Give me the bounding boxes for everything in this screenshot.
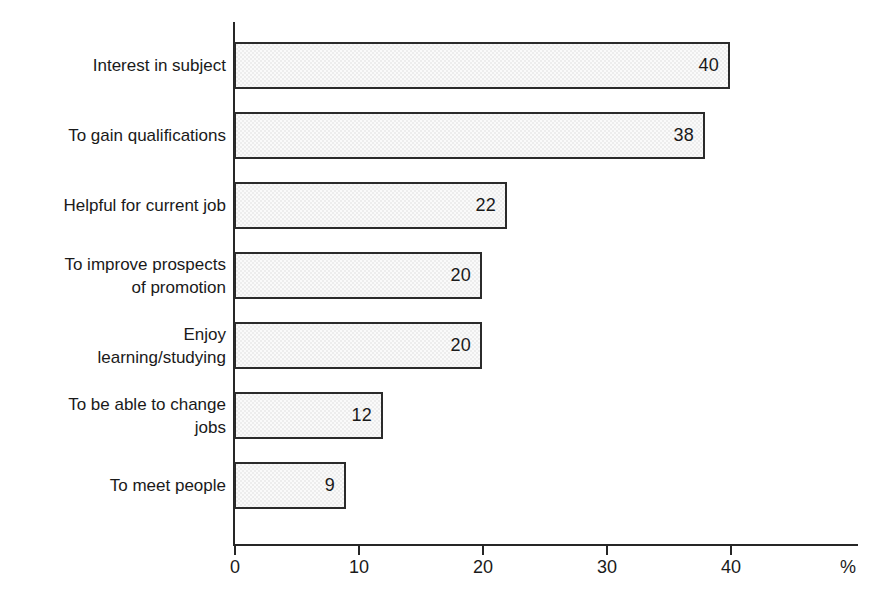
- plot-area: Interest in subject40To gain qualificati…: [0, 0, 883, 614]
- x-axis-unit-label: %: [840, 557, 856, 578]
- bar-chart: Interest in subject40To gain qualificati…: [0, 0, 883, 614]
- bar-value-label: 22: [476, 195, 505, 216]
- bar-value-label: 38: [674, 125, 703, 146]
- x-axis-line: [233, 544, 858, 546]
- x-axis-tick: [606, 546, 608, 555]
- bar: 20: [234, 252, 482, 299]
- bar: 20: [234, 322, 482, 369]
- bar-value-label: 9: [325, 475, 344, 496]
- bar-row: Helpful for current job22: [0, 182, 883, 229]
- bar: 9: [234, 462, 346, 509]
- bar-value-label: 40: [699, 55, 728, 76]
- bar-row: To be able to change jobs12: [0, 392, 883, 439]
- category-label: To be able to change jobs: [0, 393, 226, 439]
- x-axis-tick: [234, 546, 236, 555]
- bar-row: To gain qualifications38: [0, 112, 883, 159]
- category-label: To improve prospects of promotion: [0, 253, 226, 299]
- x-axis-tick-label: 40: [701, 557, 761, 578]
- bar-value-label: 12: [352, 405, 381, 426]
- bar-row: To meet people9: [0, 462, 883, 509]
- x-axis-tick-label: 20: [453, 557, 513, 578]
- x-axis-tick-label: 0: [205, 557, 265, 578]
- bar-row: To improve prospects of promotion20: [0, 252, 883, 299]
- bar-row: Interest in subject40: [0, 42, 883, 89]
- bar: 40: [234, 42, 730, 89]
- x-axis-tick-label: 10: [329, 557, 389, 578]
- bar-value-label: 20: [451, 335, 480, 356]
- x-axis-tick-label: 30: [577, 557, 637, 578]
- bar-value-label: 20: [451, 265, 480, 286]
- x-axis-tick: [482, 546, 484, 555]
- x-axis-tick: [730, 546, 732, 555]
- bar: 38: [234, 112, 705, 159]
- bar: 12: [234, 392, 383, 439]
- bar: 22: [234, 182, 507, 229]
- category-label: Interest in subject: [0, 54, 226, 77]
- category-label: To meet people: [0, 474, 226, 497]
- category-label: Helpful for current job: [0, 194, 226, 217]
- x-axis-tick: [358, 546, 360, 555]
- bar-row: Enjoy learning/studying20: [0, 322, 883, 369]
- category-label: Enjoy learning/studying: [0, 323, 226, 369]
- category-label: To gain qualifications: [0, 124, 226, 147]
